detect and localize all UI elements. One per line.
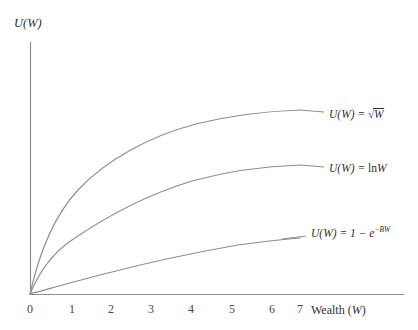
curve-label-sqrt-lhs: U(W) = (329, 108, 368, 120)
curve-label-exponential: U(W) = 1 − e−BW (311, 228, 390, 240)
curve-exponential (30, 238, 300, 294)
x-tick-label-2: 2 (104, 303, 118, 315)
x-axis-title-prefix: Wealth ( (311, 303, 352, 317)
curve-label-sqrt: U(W) = √W (329, 108, 384, 121)
x-tick-label-6: 6 (265, 303, 279, 315)
x-axis-title-variable: W (352, 303, 362, 317)
x-tick-label-4: 4 (184, 303, 198, 315)
y-axis-title: U(W) (14, 17, 42, 30)
curve-sqrt (30, 110, 300, 294)
curve-label-ln-function: ln (368, 162, 377, 174)
x-tick-label-0: 0 (23, 303, 37, 315)
x-tick-label-5: 5 (225, 303, 239, 315)
utility-function-chart: U(W) Wealth (W) 0 1 2 3 4 5 6 7 U(W) = √… (0, 0, 418, 330)
x-axis-title-suffix: ) (362, 303, 366, 317)
curve-label-ln-argument: W (377, 162, 387, 174)
curve-label-ln: U(W) = lnW (329, 163, 387, 175)
curve-label-sqrt-radicand: W (373, 108, 384, 121)
x-tick-label-7: 7 (293, 303, 307, 315)
leader-line-ln (300, 165, 324, 167)
x-tick-label-1: 1 (65, 303, 79, 315)
leader-line-sqrt (300, 110, 324, 112)
curve-label-exp-exponent: −BW (374, 225, 390, 234)
x-tick-label-3: 3 (144, 303, 158, 315)
curve-ln (30, 165, 300, 294)
x-axis-title: Wealth (W) (311, 304, 366, 316)
curve-label-ln-lhs: U(W) = (329, 162, 368, 174)
curve-label-exp-lhs: U(W) = 1 − (311, 227, 369, 239)
